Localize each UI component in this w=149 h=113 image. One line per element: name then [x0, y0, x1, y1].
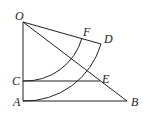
label-a: A: [13, 96, 20, 108]
label-e: E: [102, 73, 109, 85]
label-d: D: [104, 33, 113, 45]
label-o: O: [15, 10, 24, 22]
label-c: C: [12, 75, 20, 87]
label-f: F: [83, 26, 90, 38]
label-b: B: [131, 96, 138, 108]
